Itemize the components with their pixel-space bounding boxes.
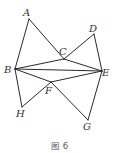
- segment-BE: [15, 69, 102, 71]
- segment-FE: [51, 71, 102, 82]
- figure-caption: 图 6: [51, 141, 68, 151]
- segment-AB: [15, 19, 29, 69]
- segment-BF: [15, 69, 51, 82]
- point-label-B: B: [3, 64, 11, 75]
- point-label-H: H: [15, 108, 25, 119]
- segment-DE: [94, 34, 102, 71]
- segment-BH: [15, 69, 22, 107]
- segment-BC: [15, 59, 64, 69]
- geometry-figure: ABCDEFGH 图 6: [0, 0, 119, 153]
- segment-CE: [64, 59, 102, 71]
- point-label-E: E: [101, 67, 110, 78]
- point-label-C: C: [59, 46, 67, 57]
- point-label-G: G: [83, 121, 91, 132]
- point-label-F: F: [44, 85, 53, 96]
- point-label-A: A: [22, 7, 30, 18]
- segment-GE: [88, 71, 102, 120]
- segment-FG: [51, 82, 88, 120]
- segments-group: [15, 19, 102, 120]
- segment-CD: [64, 34, 94, 59]
- point-label-D: D: [88, 23, 97, 34]
